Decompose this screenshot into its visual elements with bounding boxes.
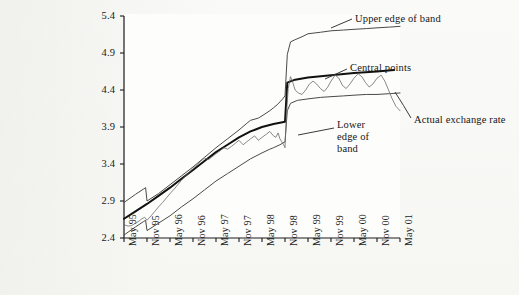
x-axis-tick-label: Nov 98: [289, 215, 299, 246]
x-axis-tick-label: Nov 96: [197, 215, 207, 246]
y-axis-tick-label: 4.9: [91, 48, 115, 59]
series-line-upper-edge-of-band: [124, 26, 400, 202]
actual-rate-leader-line: [395, 92, 411, 118]
x-axis-tick-label: Nov 99: [335, 215, 345, 246]
annotation-lower-edge-of-band: Lower: [337, 119, 365, 131]
annotation-lower-edge-of-band-cont: edge of band: [337, 131, 369, 154]
x-axis-tick-label: May 97: [220, 214, 230, 246]
x-axis-tick-label: Nov 00: [381, 215, 391, 246]
y-axis-tick-label: 2.4: [91, 233, 115, 244]
upper-edge-leader-line: [331, 19, 352, 28]
x-axis-tick-label: May 00: [358, 214, 368, 246]
annotation-upper-edge-of-band: Upper edge of band: [355, 13, 441, 25]
line-chart-canvas: [0, 0, 519, 295]
lower-edge-leader-line: [298, 128, 334, 135]
y-axis-tick-label: 3.9: [91, 122, 115, 133]
x-axis-tick-label: Nov 97: [243, 215, 253, 246]
y-axis-tick-label: 2.9: [91, 196, 115, 207]
figure-root: 2.42.93.43.94.44.95.4 May 95Nov 95May 96…: [0, 0, 519, 295]
x-axis-tick-label: Nov 95: [151, 215, 161, 246]
y-axis-tick-label: 5.4: [91, 11, 115, 22]
x-axis-tick-label: May 01: [404, 214, 414, 246]
annotation-central-points: Central points: [350, 62, 411, 74]
x-axis-tick-label: May 95: [128, 214, 138, 246]
x-axis-tick-label: May 99: [312, 214, 322, 246]
y-axis-tick-label: 3.4: [91, 159, 115, 170]
caption-strip: [0, 284, 519, 295]
annotation-actual-exchange-rate: Actual exchange rate: [414, 114, 506, 126]
y-axis-tick-label: 4.4: [91, 85, 115, 96]
x-axis-tick-label: May 96: [174, 214, 184, 246]
x-axis-tick-label: May 98: [266, 214, 276, 246]
